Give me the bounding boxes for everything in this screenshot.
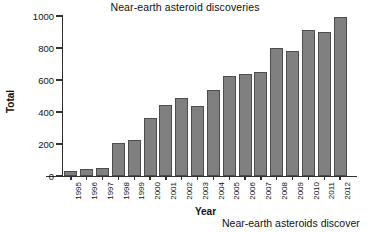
x-tick-2012 bbox=[339, 176, 340, 180]
y-axis-title: Total bbox=[5, 80, 16, 124]
x-tick-label-2012: 2012 bbox=[343, 182, 352, 200]
y-tick-label-200: 200 bbox=[38, 139, 54, 150]
bar-2007 bbox=[254, 72, 267, 176]
x-tick-2000 bbox=[149, 176, 150, 180]
x-tick-2001 bbox=[165, 176, 166, 180]
x-tick-2006 bbox=[244, 176, 245, 180]
y-tick-label-600: 600 bbox=[38, 75, 54, 86]
y-tick-200 bbox=[56, 143, 63, 144]
x-tick-label-2004: 2004 bbox=[217, 182, 226, 200]
x-tick-1995 bbox=[70, 176, 71, 180]
x-tick-label-2005: 2005 bbox=[232, 182, 241, 200]
bar-2000 bbox=[144, 118, 157, 176]
y-tick-label-1000: 1000 bbox=[33, 11, 54, 22]
bar-2005 bbox=[223, 76, 236, 176]
x-tick-label-2010: 2010 bbox=[312, 182, 321, 200]
chart-title: Near-earth asteroid discoveries bbox=[0, 1, 370, 13]
x-axis-title: Year bbox=[63, 206, 348, 217]
x-tick-2009 bbox=[292, 176, 293, 180]
x-tick-label-1999: 1999 bbox=[137, 182, 146, 200]
x-tick-2004 bbox=[213, 176, 214, 180]
figure-bar-chart: Near-earth asteroid discoveries Total 02… bbox=[0, 0, 370, 232]
x-tick-2008 bbox=[276, 176, 277, 180]
bar-2008 bbox=[270, 48, 283, 176]
x-tick-label-2008: 2008 bbox=[280, 182, 289, 200]
x-axis-line bbox=[46, 176, 357, 177]
x-tick-label-1996: 1996 bbox=[90, 182, 99, 200]
bar-1996 bbox=[80, 169, 93, 176]
x-tick-label-2001: 2001 bbox=[169, 182, 178, 200]
x-tick-2003 bbox=[197, 176, 198, 180]
bar-1998 bbox=[112, 143, 125, 176]
bar-2011 bbox=[318, 32, 331, 176]
bar-2009 bbox=[286, 51, 299, 176]
y-tick-600 bbox=[56, 79, 63, 80]
x-tick-2011 bbox=[324, 176, 325, 180]
y-tick-400 bbox=[56, 111, 63, 112]
x-tick-1997 bbox=[102, 176, 103, 180]
x-tick-2007 bbox=[260, 176, 261, 180]
y-tick-0 bbox=[56, 175, 63, 176]
x-tick-label-2003: 2003 bbox=[201, 182, 210, 200]
bar-2002 bbox=[175, 98, 188, 176]
y-tick-1000 bbox=[56, 15, 63, 16]
x-tick-1996 bbox=[86, 176, 87, 180]
x-tick-label-1995: 1995 bbox=[74, 182, 83, 200]
x-tick-label-1997: 1997 bbox=[106, 182, 115, 200]
bar-2004 bbox=[207, 90, 220, 176]
x-tick-label-2009: 2009 bbox=[296, 182, 305, 200]
bar-1997 bbox=[96, 168, 109, 176]
bar-2003 bbox=[191, 106, 204, 176]
x-tick-label-2011: 2011 bbox=[327, 182, 336, 199]
x-tick-2005 bbox=[229, 176, 230, 180]
bar-1999 bbox=[128, 140, 141, 176]
x-tick-label-2000: 2000 bbox=[153, 182, 162, 200]
bar-2001 bbox=[159, 105, 172, 176]
bar-2010 bbox=[302, 30, 315, 176]
bar-series bbox=[63, 16, 348, 176]
x-tick-label-2006: 2006 bbox=[248, 182, 257, 200]
y-tick-label-400: 400 bbox=[38, 107, 54, 118]
x-tick-1998 bbox=[118, 176, 119, 180]
y-tick-label-0: 0 bbox=[49, 171, 54, 182]
bar-2006 bbox=[239, 74, 252, 176]
y-tick-label-800: 800 bbox=[38, 43, 54, 54]
figure-caption: Near-earth asteroids discover bbox=[222, 217, 360, 229]
x-tick-2002 bbox=[181, 176, 182, 180]
y-tick-800 bbox=[56, 47, 63, 48]
x-tick-2010 bbox=[308, 176, 309, 180]
x-tick-label-2002: 2002 bbox=[185, 182, 194, 200]
x-tick-label-2007: 2007 bbox=[264, 182, 273, 200]
x-tick-1999 bbox=[134, 176, 135, 180]
bar-2012 bbox=[334, 17, 347, 176]
x-tick-label-1998: 1998 bbox=[122, 182, 131, 200]
